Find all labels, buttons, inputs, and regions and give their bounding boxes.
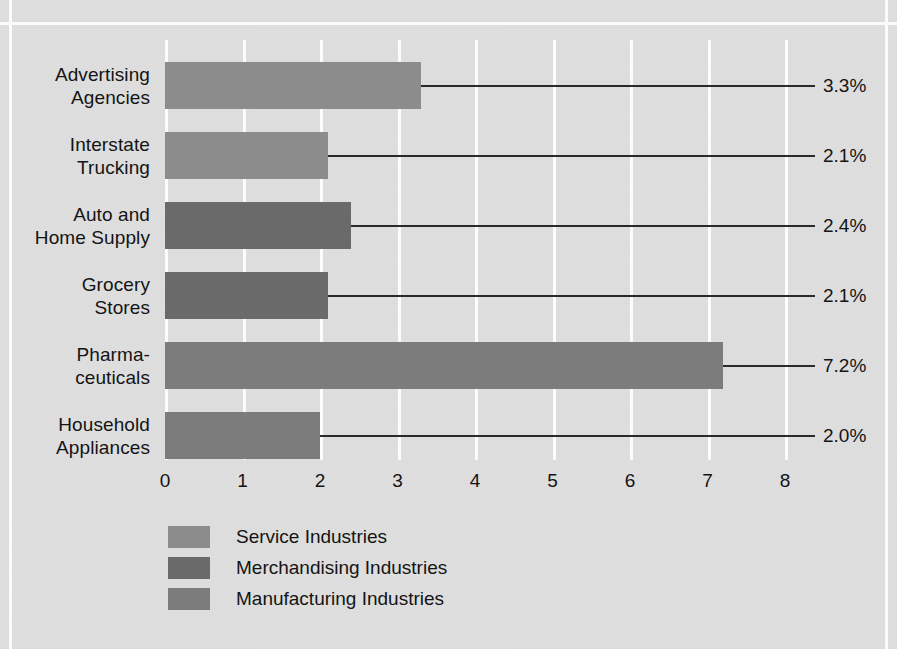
- x-tick-label: 6: [617, 470, 643, 492]
- legend-item: Service Industries: [168, 521, 447, 552]
- bar: [165, 202, 351, 249]
- x-tick-label: 7: [695, 470, 721, 492]
- bar: [165, 62, 421, 109]
- percent-value-label: 2.4%: [823, 216, 893, 236]
- legend-item: Manufacturing Industries: [168, 583, 447, 614]
- category-label-line: Grocery: [0, 273, 150, 296]
- legend-swatch: [168, 557, 210, 579]
- panel-right-rule: [885, 0, 888, 649]
- category-label-line: Pharma-: [0, 343, 150, 366]
- gridline-4: [475, 40, 478, 460]
- category-label: Auto andHome Supply: [0, 203, 150, 249]
- percent-value-label: 3.3%: [823, 76, 893, 96]
- x-tick-label: 0: [152, 470, 178, 492]
- leader-line: [723, 365, 815, 367]
- leader-line: [320, 435, 815, 437]
- category-label-line: Interstate: [0, 133, 150, 156]
- category-label-line: Agencies: [0, 86, 150, 109]
- leader-line: [328, 155, 815, 157]
- percent-value-label: 2.0%: [823, 426, 893, 446]
- x-tick-label: 3: [385, 470, 411, 492]
- legend-label: Merchandising Industries: [236, 557, 447, 579]
- legend-item: Merchandising Industries: [168, 552, 447, 583]
- x-tick-label: 2: [307, 470, 333, 492]
- x-axis: 012345678: [165, 470, 785, 498]
- category-label-line: Stores: [0, 296, 150, 319]
- category-label: HouseholdAppliances: [0, 413, 150, 459]
- plot-area: [165, 40, 785, 460]
- leader-line: [328, 295, 815, 297]
- category-label: AdvertisingAgencies: [0, 63, 150, 109]
- percent-value-label: 2.1%: [823, 286, 893, 306]
- chart-legend: Service IndustriesMerchandising Industri…: [168, 521, 447, 614]
- category-label: Pharma-ceuticals: [0, 343, 150, 389]
- gridline-5: [553, 40, 556, 460]
- x-tick-label: 4: [462, 470, 488, 492]
- legend-swatch: [168, 588, 210, 610]
- bar: [165, 132, 328, 179]
- gridline-6: [630, 40, 633, 460]
- legend-label: Manufacturing Industries: [236, 588, 444, 610]
- category-label-line: Appliances: [0, 436, 150, 459]
- chart-figure: AdvertisingAgenciesInterstateTruckingAut…: [0, 0, 897, 649]
- x-tick-label: 8: [772, 470, 798, 492]
- category-label: InterstateTrucking: [0, 133, 150, 179]
- category-label-line: Trucking: [0, 156, 150, 179]
- category-label-line: Household: [0, 413, 150, 436]
- panel-top-rule: [0, 22, 897, 25]
- percent-value-label: 7.2%: [823, 356, 893, 376]
- leader-line: [421, 85, 815, 87]
- gridline-7: [708, 40, 711, 460]
- category-label: GroceryStores: [0, 273, 150, 319]
- legend-label: Service Industries: [236, 526, 387, 548]
- bar: [165, 342, 723, 389]
- category-label-line: Home Supply: [0, 226, 150, 249]
- legend-swatch: [168, 526, 210, 548]
- category-label-line: ceuticals: [0, 366, 150, 389]
- category-label-line: Auto and: [0, 203, 150, 226]
- bar: [165, 272, 328, 319]
- leader-line: [351, 225, 815, 227]
- bar: [165, 412, 320, 459]
- gridline-8: [785, 40, 788, 460]
- category-label-line: Advertising: [0, 63, 150, 86]
- x-tick-label: 5: [540, 470, 566, 492]
- x-tick-label: 1: [230, 470, 256, 492]
- percent-value-label: 2.1%: [823, 146, 893, 166]
